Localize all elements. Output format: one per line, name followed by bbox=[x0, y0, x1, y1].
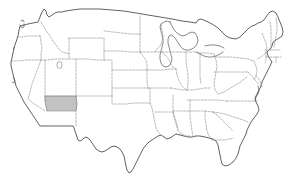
us-map-container bbox=[0, 0, 288, 178]
national-outline bbox=[11, 9, 283, 173]
us-map-svg bbox=[0, 0, 288, 178]
state-arizona-highlight[interactable] bbox=[45, 96, 77, 111]
